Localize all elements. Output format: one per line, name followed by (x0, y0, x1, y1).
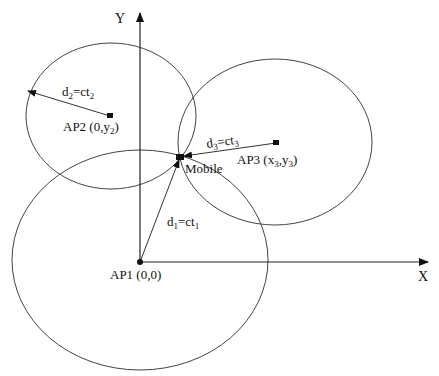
ap1-label: AP1 (0,0) (110, 267, 161, 282)
d1-vector (140, 160, 179, 262)
d3-label: d3=ct3 (205, 132, 240, 153)
trilateration-diagram: Y X AP1 (0,0) AP2 (0,y2) AP3 (x3,y3) Mob… (0, 0, 439, 376)
ap3-label: AP3 (x3,y3) (237, 152, 297, 169)
d1-label: d1=ct1 (167, 214, 199, 231)
ap1-marker (137, 259, 143, 265)
x-axis-label: X (418, 269, 428, 284)
mobile-marker (176, 154, 184, 160)
ap2-marker (107, 113, 113, 118)
ap3-marker (273, 140, 279, 145)
ap2-label: AP2 (0,y2) (63, 119, 119, 136)
y-axis-label: Y (115, 11, 125, 26)
d2-label: d2=ct2 (62, 84, 94, 101)
mobile-label: Mobile (185, 161, 223, 176)
